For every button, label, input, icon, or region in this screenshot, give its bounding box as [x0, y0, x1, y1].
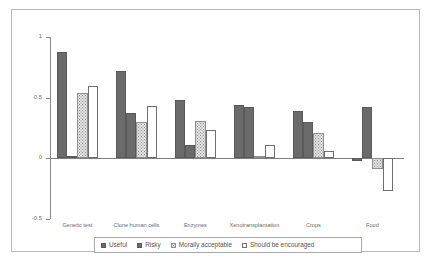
chart-legend: UsefulRiskyMorally acceptableShould be e… [94, 237, 362, 253]
bar [313, 133, 323, 158]
legend-swatch-icon [242, 243, 247, 248]
bar [147, 106, 157, 158]
bar [324, 151, 334, 158]
legend-label: Should be encouraged [250, 241, 314, 249]
legend-item[interactable]: Useful [101, 241, 127, 249]
legend-swatch-icon [171, 243, 176, 248]
bar [88, 86, 98, 159]
y-axis-tick [46, 219, 50, 220]
bar [372, 158, 382, 169]
bar [175, 100, 185, 158]
y-axis-tick [46, 37, 50, 38]
bar [57, 52, 67, 159]
bar [185, 145, 195, 158]
bar [116, 71, 126, 158]
bar [303, 122, 313, 158]
y-axis-tick-label: 0.5 [18, 94, 42, 101]
legend-item[interactable]: Should be encouraged [242, 241, 314, 249]
legend-swatch-icon [137, 243, 142, 248]
bar [254, 156, 264, 158]
bar [126, 113, 136, 158]
bar [195, 121, 205, 159]
bar [234, 105, 244, 158]
x-axis-label: Food [322, 221, 422, 229]
legend-item[interactable]: Morally acceptable [171, 241, 232, 249]
y-axis-tick [46, 158, 50, 159]
bar [383, 158, 393, 191]
bar [136, 122, 146, 158]
legend-label: Morally acceptable [179, 241, 232, 249]
legend-swatch-icon [101, 243, 106, 248]
bar [265, 145, 275, 158]
bar [352, 158, 362, 160]
bar [206, 130, 216, 158]
bar [67, 156, 77, 158]
chart-root: 10.50-0.5 Genetic testClone human cellsE… [0, 0, 435, 269]
y-axis-tick-label: 0 [18, 154, 42, 161]
legend-label: Risky [145, 241, 161, 249]
chart-frame: 10.50-0.5 Genetic testClone human cellsE… [11, 9, 420, 252]
bar [293, 111, 303, 158]
legend-label: Useful [109, 241, 127, 249]
bar [77, 93, 87, 159]
zero-baseline [50, 158, 404, 159]
bar [244, 107, 254, 158]
legend-item[interactable]: Risky [137, 241, 161, 249]
plot-area: 10.50-0.5 Genetic testClone human cellsE… [50, 37, 404, 219]
bar [362, 107, 372, 158]
y-axis-line [50, 37, 51, 219]
y-axis-tick-label: 1 [18, 33, 42, 40]
y-axis-tick [46, 98, 50, 99]
